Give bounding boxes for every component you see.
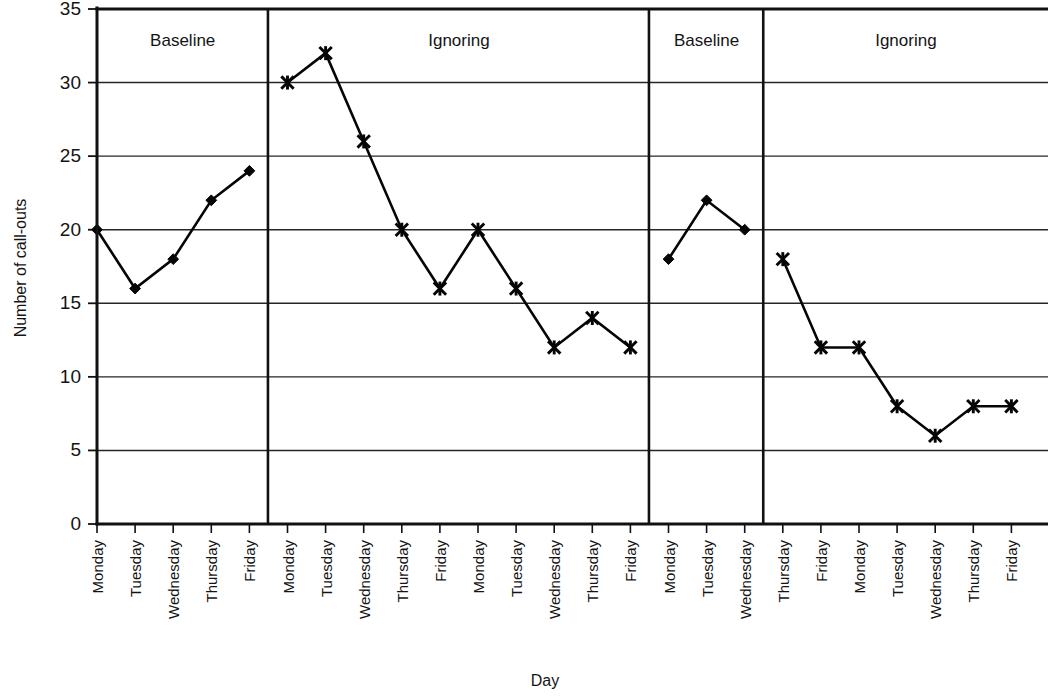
- y-tick-label: 5: [70, 439, 81, 460]
- x-tick-label: Wednesday: [356, 540, 373, 619]
- x-tick-label: Wednesday: [165, 540, 182, 619]
- y-tick-label: 0: [70, 513, 81, 534]
- x-tick-label: Monday: [280, 540, 297, 594]
- x-tick-label: Monday: [851, 540, 868, 594]
- x-tick-label: Tuesday: [699, 540, 716, 597]
- y-tick-label: 20: [60, 219, 81, 240]
- x-tick-label: Wednesday: [927, 540, 944, 619]
- x-axis-title: Day: [531, 672, 559, 689]
- phase-label: Baseline: [674, 31, 739, 50]
- phase-label: Baseline: [150, 31, 215, 50]
- x-tick-label: Tuesday: [127, 540, 144, 597]
- x-tick-label: Friday: [241, 540, 258, 582]
- x-tick-label: Thursday: [775, 540, 792, 603]
- x-tick-label: Monday: [89, 540, 106, 594]
- phase-label: Ignoring: [428, 31, 489, 50]
- y-tick-label: 10: [60, 366, 81, 387]
- phase-label: Ignoring: [875, 31, 936, 50]
- x-tick-label: Thursday: [394, 540, 411, 603]
- x-tick-label: Friday: [1003, 540, 1020, 582]
- x-tick-label: Friday: [622, 540, 639, 582]
- x-tick-label: Tuesday: [508, 540, 525, 597]
- x-tick-label: Wednesday: [737, 540, 754, 619]
- y-tick-label: 25: [60, 145, 81, 166]
- x-tick-label: Tuesday: [889, 540, 906, 597]
- chart-page: 05101520253035 MondayTuesdayWednesdayThu…: [0, 0, 1048, 696]
- y-axis-title: Number of call-outs: [12, 199, 29, 338]
- x-tick-label: Friday: [813, 540, 830, 582]
- x-tick-label: Thursday: [203, 540, 220, 603]
- x-tick-label: Wednesday: [546, 540, 563, 619]
- y-tick-label: 30: [60, 72, 81, 93]
- x-tick-label: Monday: [661, 540, 678, 594]
- x-tick-label: Tuesday: [318, 540, 335, 597]
- y-tick-label: 15: [60, 292, 81, 313]
- x-tick-label: Thursday: [584, 540, 601, 603]
- x-tick-label: Thursday: [965, 540, 982, 603]
- y-tick-label: 35: [60, 0, 81, 19]
- x-tick-label: Monday: [470, 540, 487, 594]
- call-outs-line-chart: 05101520253035 MondayTuesdayWednesdayThu…: [0, 0, 1048, 696]
- x-tick-label: Friday: [432, 540, 449, 582]
